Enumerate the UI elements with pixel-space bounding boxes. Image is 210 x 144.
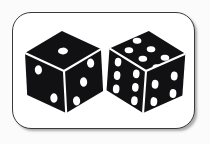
dice-illustration-stage [0,0,210,144]
dice-group [0,0,210,144]
right-die [96,21,196,121]
